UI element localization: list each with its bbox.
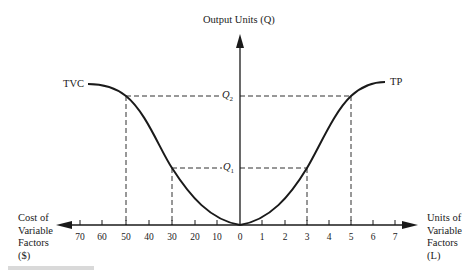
- diagram-canvas: [0, 0, 476, 270]
- y-axis-arrow-icon: [236, 34, 244, 48]
- x-axis-left-arrow-icon: [56, 221, 72, 229]
- tick-label-5: 5: [349, 232, 354, 242]
- q1-label: Q1: [223, 161, 234, 175]
- tick-label-2: 2: [283, 232, 288, 242]
- tick-label-70: 70: [75, 232, 85, 242]
- tick-label-50: 50: [121, 232, 131, 242]
- tick-label-3: 3: [305, 232, 310, 242]
- y-axis-label: Output Units (Q): [203, 14, 275, 26]
- tick-label-4: 4: [327, 232, 332, 242]
- x-axis-right-arrow-icon: [402, 221, 418, 229]
- tick-label-60: 60: [97, 232, 107, 242]
- tick-label-1: 1: [260, 232, 265, 242]
- tick-label-20: 20: [190, 232, 200, 242]
- tick-label-30: 30: [167, 232, 177, 242]
- scan-artifact-bar: [8, 266, 94, 270]
- tp-label: TP: [390, 76, 402, 88]
- tick-label-40: 40: [144, 232, 154, 242]
- tick-label-origin: 0: [238, 232, 243, 242]
- left-axis-label: Cost of Variable Factors ($): [18, 212, 53, 262]
- right-axis-label: Units of Variable Factors (L): [427, 212, 462, 262]
- tvc-curve: [88, 84, 240, 225]
- tp-curve: [240, 82, 385, 225]
- dashed-guides: [126, 96, 351, 225]
- tick-label-10: 10: [212, 232, 222, 242]
- q2-label: Q2: [222, 89, 233, 103]
- tvc-label: TVC: [63, 78, 84, 90]
- tick-label-7: 7: [393, 232, 398, 242]
- tick-label-6: 6: [371, 232, 376, 242]
